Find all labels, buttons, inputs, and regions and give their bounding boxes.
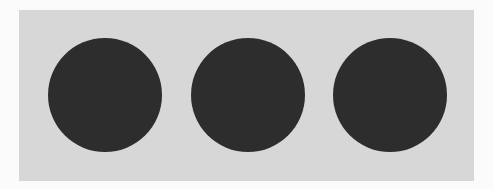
dark-circle-3 [333, 38, 447, 152]
dark-circle-1 [48, 38, 162, 152]
gray-panel [19, 10, 474, 181]
dark-circle-2 [191, 38, 305, 152]
